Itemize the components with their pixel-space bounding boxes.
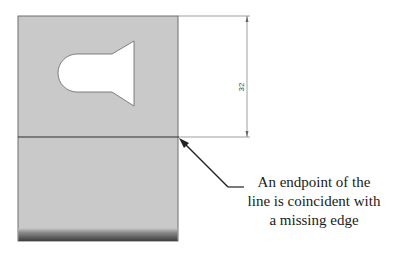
callout-leader — [182, 141, 228, 187]
dimension-arrow-top — [246, 16, 249, 22]
dimension-value[interactable]: 32 — [237, 82, 246, 91]
part-face — [18, 16, 178, 241]
callout-text: An endpoint of the line is coincident wi… — [226, 173, 402, 230]
part-bottom-shade — [19, 228, 178, 241]
callout-line-2: line is coincident with — [226, 192, 402, 211]
callout-line-1: An endpoint of the — [226, 173, 402, 192]
callout-line-3: a missing edge — [226, 211, 402, 230]
dimension-arrow-bottom — [246, 131, 249, 137]
